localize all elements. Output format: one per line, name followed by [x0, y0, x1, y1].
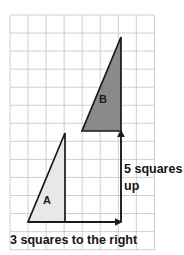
horizontal-translation-caption: 3 squares to the right — [10, 233, 138, 247]
vertical-translation-caption-line-1: 5 squares — [124, 162, 182, 176]
triangle-b-label: B — [99, 93, 107, 105]
figure-container: A B 3 squares to the right 5 squares up — [0, 0, 184, 255]
triangle-a-label: A — [43, 194, 51, 206]
translation-figure: A B 3 squares to the right 5 squares up — [0, 0, 184, 255]
vertical-translation-caption-line-2: up — [124, 179, 140, 193]
